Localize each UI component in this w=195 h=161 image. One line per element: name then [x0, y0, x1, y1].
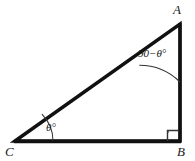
- angle-arc-A: [139, 65, 180, 82]
- vertex-label-a: A: [173, 3, 181, 16]
- vertex-label-c: C: [5, 145, 14, 158]
- triangle-svg: [0, 0, 195, 161]
- triangle-outline: [15, 24, 180, 141]
- vertex-label-b: B: [177, 145, 185, 158]
- angle-label-a: 90−θ°: [138, 48, 166, 59]
- triangle-diagram: A B C 90−θ° θ°: [0, 0, 195, 161]
- angle-label-c: θ°: [46, 122, 56, 133]
